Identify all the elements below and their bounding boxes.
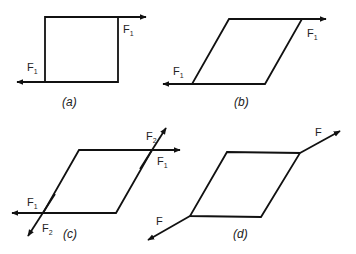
shear-stress-diagram: F1 F1 (a) F1 F1 (b) F2 F1 F1 F2 (c) F F … — [0, 0, 356, 254]
force-arrow-diagonal-down — [148, 216, 190, 240]
sheared-element — [190, 152, 300, 217]
force-label: F1 — [27, 61, 38, 75]
sheared-element — [192, 19, 302, 84]
force-label: F1 — [173, 65, 184, 79]
force-label: F2 — [146, 130, 157, 144]
force-label: F — [156, 215, 163, 227]
panel-caption: (b) — [234, 95, 249, 109]
force-label: F — [315, 126, 322, 138]
panel-a: F1 F1 (a) — [17, 17, 146, 109]
force-label: F1 — [307, 27, 318, 41]
panel-caption: (c) — [63, 227, 77, 241]
panel-caption: (d) — [233, 227, 248, 241]
panel-caption: (a) — [62, 95, 77, 109]
panel-c: F2 F1 F1 F2 (c) — [12, 128, 180, 241]
force-label: F1 — [123, 23, 134, 37]
sheared-element — [43, 150, 152, 213]
square-element — [45, 17, 118, 82]
force-label: F2 — [42, 222, 53, 236]
panel-d: F F (d) — [148, 126, 340, 241]
force-label: F1 — [27, 196, 38, 210]
panel-b: F1 F1 (b) — [163, 19, 326, 109]
force-label: F1 — [157, 155, 168, 169]
